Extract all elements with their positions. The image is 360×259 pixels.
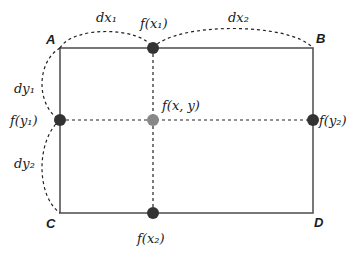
dy2-arc [42, 120, 60, 213]
dy2-label: dy₂ [14, 156, 35, 171]
dx1-arc [60, 32, 153, 49]
point-top-label: f(x₁) [139, 16, 168, 31]
corner-a-label: A [45, 32, 55, 47]
corner-c-label: C [46, 216, 56, 231]
dx2-label: dx₂ [228, 10, 249, 25]
outer-rectangle [60, 48, 313, 213]
point-left-label: f(y₁) [9, 113, 38, 128]
point-top-dot [147, 42, 159, 54]
dx2-arc [153, 29, 313, 49]
corner-d-label: D [314, 215, 324, 230]
corner-b-label: B [316, 31, 325, 46]
point-right-label: f(y₂) [318, 113, 347, 128]
point-bottom-dot [147, 207, 159, 219]
point-left-dot [54, 114, 66, 126]
point-right-dot [307, 114, 319, 126]
point-center-dot [147, 114, 159, 126]
point-bottom-label: f(x₂) [136, 231, 165, 246]
interpolation-diagram: A B C D f(x₁) f(x₂) f(y₁) f(y₂) f(x, y) … [0, 0, 360, 259]
dy1-label: dy₁ [14, 81, 35, 96]
dx1-label: dx₁ [96, 10, 117, 25]
point-center-label: f(x, y) [161, 98, 200, 113]
dy1-arc [42, 48, 60, 120]
